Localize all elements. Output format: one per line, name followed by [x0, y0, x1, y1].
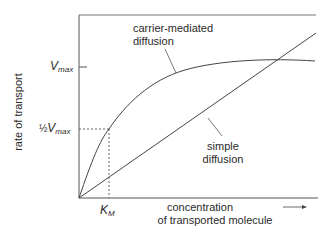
simple-diffusion-label: simple diffusion [198, 140, 248, 166]
simple-diffusion-line [79, 33, 316, 198]
x-axis-arrow-icon [302, 205, 307, 209]
carrier-label-line2: diffusion [133, 35, 213, 48]
vmax-label: Vmax [50, 60, 73, 74]
carrier-mediated-curve [79, 60, 315, 198]
carrier-label-line1: carrier-mediated [133, 22, 213, 35]
vmax-label-main: V [50, 59, 58, 73]
x-axis-label-line1: concentration [140, 201, 290, 214]
km-label-main: K [100, 203, 108, 217]
carrier-label-leader [165, 49, 176, 73]
vmax-label-sub: max [58, 65, 73, 74]
simple-label-leader [208, 118, 222, 136]
simple-label-line1: simple [198, 140, 248, 153]
x-axis-label-line2: of transported molecule [140, 214, 290, 227]
y-axis-label: rate of transport [12, 72, 24, 152]
simple-label-line2: diffusion [198, 153, 248, 166]
half-vmax-sub: max [55, 127, 70, 136]
km-label: KM [100, 204, 115, 218]
x-axis-label: concentration of transported molecule [140, 201, 290, 227]
carrier-mediated-label: carrier-mediated diffusion [133, 22, 213, 48]
half-vmax-label: ½Vmax [39, 122, 70, 136]
km-label-sub: M [108, 209, 115, 218]
